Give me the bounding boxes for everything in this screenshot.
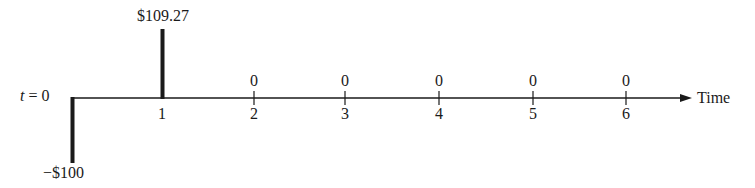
cash-outflow-bar-t0	[71, 97, 75, 163]
value-label-t3: 0	[341, 72, 349, 90]
value-label-t1: $109.27	[137, 7, 189, 25]
value-label-t6: 0	[622, 72, 630, 90]
value-label-t2: 0	[250, 72, 258, 90]
value-label-t5: 0	[529, 72, 537, 90]
axis-label-time: Time	[697, 89, 730, 107]
tick-label-t1: 1	[158, 105, 166, 123]
axis-arrow-icon	[680, 94, 692, 102]
initial-flow-label: −$100	[43, 164, 84, 182]
origin-equals: = 0	[24, 87, 49, 104]
origin-label: t = 0	[20, 87, 49, 105]
tick-label-t6: 6	[622, 105, 630, 123]
value-label-t4: 0	[435, 72, 443, 90]
timeline-graphic	[0, 0, 755, 188]
tick-label-t5: 5	[529, 105, 537, 123]
tick-label-t3: 3	[341, 105, 349, 123]
tick-label-t2: 2	[250, 105, 258, 123]
cash-inflow-bar-t1	[161, 29, 165, 99]
tick-label-t4: 4	[435, 105, 443, 123]
